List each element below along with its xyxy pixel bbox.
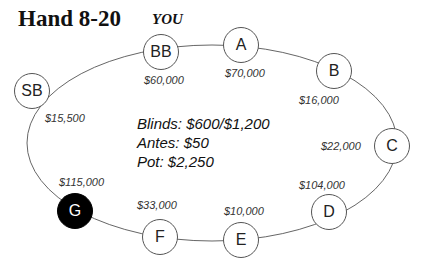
antes-text: Antes: $50 xyxy=(137,133,270,152)
seat-c: C xyxy=(374,128,410,164)
seat-bb: BB xyxy=(143,34,179,70)
stack-a: $70,000 xyxy=(225,67,265,79)
stack-e: $10,000 xyxy=(224,205,264,217)
stack-b: $16,000 xyxy=(299,94,339,106)
stack-f: $33,000 xyxy=(137,199,177,211)
seat-f: F xyxy=(142,219,178,255)
stack-g: $115,000 xyxy=(59,176,104,188)
seat-a: A xyxy=(223,27,259,63)
seat-d: D xyxy=(311,194,347,230)
seat-sb: SB xyxy=(14,73,50,109)
seat-g-hero: G xyxy=(57,193,93,229)
stack-bb: $60,000 xyxy=(144,74,184,86)
blinds-text: Blinds: $600/$1,200 xyxy=(137,114,270,133)
pot-text: Pot: $2,250 xyxy=(137,152,270,171)
seat-e: E xyxy=(223,222,259,258)
stack-sb: $15,500 xyxy=(45,112,85,124)
game-info: Blinds: $600/$1,200 Antes: $50 Pot: $2,2… xyxy=(137,114,270,171)
stack-c: $22,000 xyxy=(321,140,361,152)
seat-b: B xyxy=(316,53,352,89)
stack-d: $104,000 xyxy=(299,179,345,191)
